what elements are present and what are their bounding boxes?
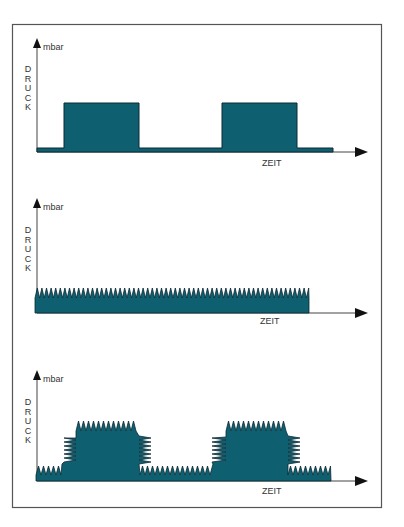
x-axis-label: ZEIT [262, 486, 282, 496]
ripple-pulse-area [36, 421, 331, 481]
y-axis-label-letter: U [25, 244, 32, 254]
y-unit-label: mbar [43, 42, 64, 52]
chart-pulse-with-ripple [33, 370, 368, 486]
x-axis-arrow-icon [355, 147, 368, 157]
y-axis-label-letter: U [25, 416, 32, 426]
y-axis-label-letter: D [25, 225, 32, 235]
x-axis-label: ZEIT [260, 316, 280, 326]
y-axis-label-letter: R [25, 74, 32, 84]
y-axis-label-letter: K [25, 102, 31, 112]
x-axis-arrow-icon [355, 476, 368, 486]
y-unit-label: mbar [43, 374, 64, 384]
y-axis-label-letter: C [25, 254, 32, 264]
x-axis-label: ZEIT [262, 158, 282, 168]
y-axis-label-letter: K [25, 263, 31, 273]
chart-continuous-ripple [33, 198, 368, 318]
y-axis-label-letter: C [25, 93, 32, 103]
y-axis-label-letter: D [25, 397, 32, 407]
y-axis-arrow-icon [33, 198, 41, 208]
y-axis-label-letter: C [25, 426, 32, 436]
pressure-diagram: mbar mbar mbar ZEIT ZEIT ZEIT DRUCKDRUCK… [0, 0, 404, 527]
ripple-area [35, 288, 309, 313]
y-axis-label-letter: R [25, 407, 32, 417]
y-axis-label-letter: R [25, 235, 32, 245]
y-unit-label: mbar [43, 202, 64, 212]
y-axis-label-letter: U [25, 83, 32, 93]
y-axis-arrow-icon [33, 370, 41, 380]
pressure-pulse-area [37, 103, 333, 152]
diagram-frame [13, 25, 382, 508]
chart-constant-pulse [33, 38, 368, 157]
x-axis-arrow-icon [355, 308, 368, 318]
y-axis-label-letter: D [25, 64, 32, 74]
y-axis-label-letter: K [25, 435, 31, 445]
y-axis-arrow-icon [33, 38, 41, 48]
